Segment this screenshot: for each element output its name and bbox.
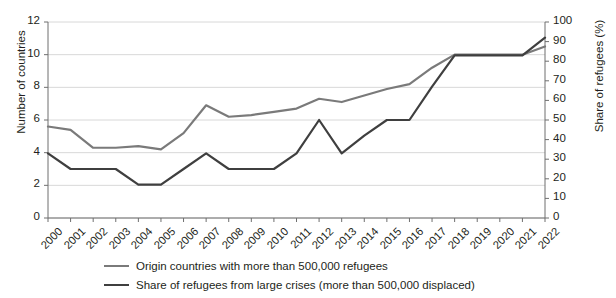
legend-label-share: Share of refugees from large crises (mor…	[136, 279, 475, 291]
series-layer	[48, 38, 545, 185]
series-line-origin	[48, 47, 545, 150]
legend-label-origin: Origin countries with more than 500,000 …	[136, 260, 388, 272]
legend-line-icon-origin	[104, 265, 129, 267]
series-line-share	[48, 38, 545, 185]
chart-container: Number of countries Share of refugees (%…	[0, 0, 616, 298]
gridlines	[48, 22, 545, 218]
tick-marks	[44, 22, 549, 222]
legend-item-share: Share of refugees from large crises (mor…	[104, 275, 616, 294]
plot-area	[0, 0, 616, 298]
legend: Origin countries with more than 500,000 …	[104, 256, 616, 294]
legend-line-icon-share	[104, 284, 129, 286]
legend-item-origin: Origin countries with more than 500,000 …	[104, 256, 616, 275]
